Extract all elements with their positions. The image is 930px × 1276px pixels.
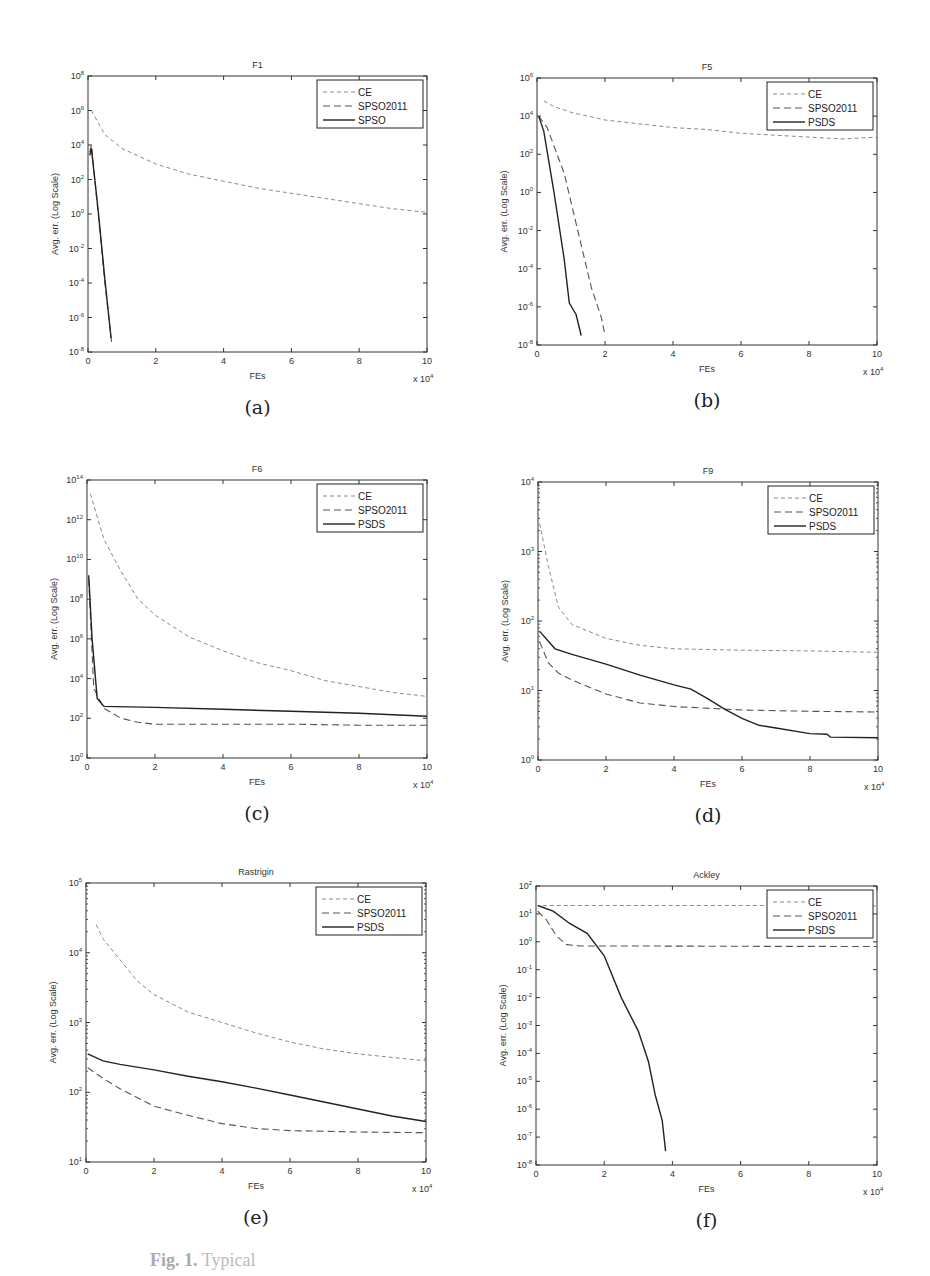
y-tick-label: 100 (521, 754, 535, 765)
legend: CESPSO2011PSDS (767, 890, 873, 938)
y-tick-label: 106 (70, 633, 84, 644)
legend-entry-spso2011: SPSO2011 (358, 505, 408, 516)
y-axis-label: Avg. err. (Log Scale) (48, 982, 58, 1064)
x-tick-label: 8 (357, 356, 362, 366)
legend-entry-spso2011: SPSO2011 (357, 908, 407, 919)
x-scale-note: x 104 (413, 373, 434, 384)
y-tick-label: 10-6 (518, 301, 534, 312)
y-tick-label: 102 (71, 174, 85, 185)
x-tick-label: 4 (220, 762, 225, 772)
chart-title: Ackley (693, 870, 720, 880)
y-tick-label: 10-2 (518, 225, 534, 236)
x-scale-note: x 104 (863, 366, 884, 377)
y-tick-label: 104 (69, 947, 83, 958)
x-tick-label: 6 (739, 764, 744, 774)
chart-title: F9 (703, 466, 714, 476)
x-scale-note: x 104 (864, 781, 885, 792)
legend-entry-ce: CE (358, 491, 372, 502)
x-tick-label: 0 (533, 1169, 538, 1179)
x-tick-label: 6 (287, 1166, 292, 1176)
subfigure-label: (c) (227, 802, 287, 824)
chart-title: Rastrigin (238, 867, 274, 877)
y-tick-label: 10-8 (518, 339, 534, 350)
legend-entry-psds: PSDS (808, 925, 836, 936)
legend-entry-spso2011: SPSO2011 (808, 911, 858, 922)
x-axis-label: FEs (249, 777, 266, 787)
legend-entry-psds: PSDS (808, 117, 836, 128)
x-tick-label: 4 (221, 356, 226, 366)
x-tick-label: 10 (872, 1169, 882, 1179)
x-tick-label: 8 (356, 762, 361, 772)
x-tick-label: 4 (671, 764, 676, 774)
y-tick-label: 10-4 (518, 263, 534, 274)
x-tick-label: 4 (670, 1169, 675, 1179)
subfigure-label: (b) (677, 389, 737, 411)
x-axis-label: FEs (248, 1181, 265, 1191)
y-tick-label: 10-5 (517, 1075, 533, 1086)
chart-title: F5 (702, 62, 713, 72)
y-tick-label: 106 (520, 72, 534, 83)
legend-entry-spso2011: SPSO2011 (808, 103, 858, 114)
x-scale-note: x 104 (863, 1186, 884, 1197)
chart-panel-e: Rastrigin1011021031041050246810FEsx 104A… (26, 853, 446, 1207)
chart-panel-a: F110-810-610-410-21001021041061080246810… (28, 46, 447, 397)
x-axis-label: FEs (698, 1184, 715, 1194)
y-tick-label: 103 (521, 546, 535, 557)
y-tick-label: 100 (71, 208, 85, 219)
legend: CESPSO2011PSDS (317, 484, 423, 532)
chart-panel-d: F91001011021031040246810FEsx 104Avg. err… (478, 452, 898, 805)
y-axis-label: Avg. err. (Log Scale) (50, 173, 60, 255)
x-tick-label: 8 (807, 764, 812, 774)
x-tick-label: 6 (288, 762, 293, 772)
x-tick-label: 0 (84, 762, 89, 772)
x-tick-label: 10 (422, 762, 432, 772)
legend: CESPSO2011PSDS (316, 887, 422, 935)
x-tick-label: 8 (806, 349, 811, 359)
subfigure-label: (f) (677, 1209, 737, 1231)
legend-entry-psds: PSDS (358, 519, 386, 530)
y-tick-label: 108 (70, 593, 84, 604)
x-tick-label: 2 (602, 349, 607, 359)
figure-caption-text: Typical (202, 1250, 256, 1270)
y-tick-label: 102 (519, 880, 533, 891)
x-tick-label: 2 (151, 1166, 156, 1176)
y-tick-label: 100 (519, 936, 533, 947)
y-tick-label: 10-4 (517, 1047, 533, 1058)
x-axis-label: FEs (699, 364, 716, 374)
subfigure-label: (d) (678, 804, 738, 826)
y-tick-label: 100 (70, 752, 84, 763)
legend: CESPSO2011SPSO (317, 80, 423, 128)
y-tick-label: 10-8 (517, 1159, 533, 1170)
figure-caption-label: Fig. 1. (150, 1250, 198, 1270)
x-tick-label: 0 (535, 764, 540, 774)
x-axis-label: FEs (700, 779, 717, 789)
x-tick-label: 10 (873, 764, 883, 774)
y-tick-label: 10-4 (69, 277, 85, 288)
y-tick-label: 101 (69, 1156, 83, 1167)
y-axis-label: Avg. err. (Log Scale) (500, 580, 510, 662)
y-tick-label: 104 (520, 110, 534, 121)
x-scale-note: x 104 (413, 779, 434, 790)
x-tick-label: 0 (83, 1166, 88, 1176)
legend-entry-spso2011: SPSO2011 (358, 101, 408, 112)
x-tick-label: 2 (153, 356, 158, 366)
y-tick-label: 1012 (66, 514, 83, 525)
x-tick-label: 0 (534, 349, 539, 359)
y-axis-label: Avg. err. (Log Scale) (499, 171, 509, 253)
y-tick-label: 104 (71, 139, 85, 150)
y-tick-label: 103 (69, 1017, 83, 1028)
chart-panel-c: F61001021041061081010101210140246810FEsx… (27, 450, 447, 803)
y-axis-label: Avg. err. (Log Scale) (49, 578, 59, 660)
y-tick-label: 10-6 (69, 312, 85, 323)
y-tick-label: 10-1 (517, 964, 533, 975)
x-tick-label: 10 (872, 349, 882, 359)
y-tick-label: 1010 (66, 553, 83, 564)
y-tick-label: 10-3 (517, 1020, 533, 1031)
x-tick-label: 6 (289, 356, 294, 366)
legend-entry-ce: CE (357, 894, 371, 905)
y-tick-label: 10-8 (69, 346, 85, 357)
y-tick-label: 108 (71, 70, 85, 81)
x-tick-label: 10 (421, 1166, 431, 1176)
x-tick-label: 6 (738, 349, 743, 359)
y-tick-label: 10-2 (517, 992, 533, 1003)
